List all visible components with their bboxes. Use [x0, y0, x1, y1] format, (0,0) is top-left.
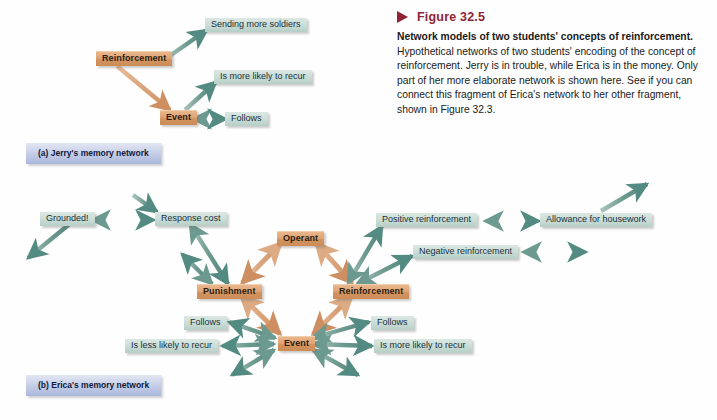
jerry-links: [117, 30, 226, 119]
caption-erica-memory-network: (b) Erica's memory network: [26, 375, 161, 396]
node-response-cost[interactable]: Response cost: [155, 212, 227, 226]
node-label: Is more likely to recur: [374, 339, 472, 353]
node-jerry-follows[interactable]: Follows: [225, 112, 268, 126]
link-operant-punishment: [242, 243, 281, 283]
link-stub-respcost-up: [133, 195, 157, 212]
node-negative-reinforcement[interactable]: Negative reinforcement: [413, 245, 518, 259]
link-stub-grounded-down: [28, 222, 72, 258]
node-erica-reinforcement[interactable]: Reinforcement: [333, 284, 409, 299]
triangle-right-icon: [397, 11, 408, 23]
node-label: Event: [160, 110, 197, 125]
link-stub-punishment-upleft: [182, 254, 212, 284]
node-label: Event: [278, 336, 315, 351]
node-positive-reinforcement[interactable]: Positive reinforcement: [376, 213, 477, 227]
figure-page: Sending more soldiers Reinforcement Is m…: [0, 0, 717, 420]
node-label: Follows: [184, 316, 227, 330]
figure-number: Figure 32.5: [417, 10, 485, 24]
link-responsecost-punishment: [190, 224, 228, 284]
link-reinforcement-negative: [357, 256, 412, 284]
node-jerry-reinforcement[interactable]: Reinforcement: [96, 51, 172, 66]
figure-caption-block: Figure 32.5 Network models of two studen…: [397, 10, 709, 118]
link-event-morelikely: [313, 344, 372, 346]
node-label: Follows: [225, 112, 268, 126]
node-label: Follows: [371, 316, 414, 330]
node-label: Positive reinforcement: [376, 213, 477, 227]
node-erica-is-more-likely-to-recur[interactable]: Is more likely to recur: [374, 339, 472, 353]
link-stub-allowance-up: [601, 184, 647, 211]
node-erica-follows-right[interactable]: Follows: [371, 316, 414, 330]
link-stub-event-downright: [313, 350, 358, 375]
link-operant-reinforcement: [316, 243, 352, 283]
node-label: Sending more soldiers: [205, 18, 307, 32]
figure-heading-row: Figure 32.5: [397, 10, 709, 24]
node-jerry-is-more-likely-to-recur[interactable]: Is more likely to recur: [214, 70, 312, 84]
node-label: Reinforcement: [333, 284, 409, 299]
node-label: Punishment: [197, 284, 262, 299]
caption-text: (b) Erica's memory network: [26, 375, 161, 396]
node-allowance-for-housework[interactable]: Allowance for housework: [540, 213, 652, 227]
node-jerry-event[interactable]: Event: [160, 110, 197, 125]
node-erica-event[interactable]: Event: [278, 336, 315, 351]
link-stub-event-downleft: [232, 350, 274, 375]
node-label: Reinforcement: [96, 51, 172, 66]
node-operant[interactable]: Operant: [277, 231, 324, 246]
node-label: Is less likely to recur: [125, 339, 218, 353]
node-label: Grounded!: [40, 212, 95, 226]
figure-caption-text: Network models of two students' concepts…: [397, 30, 709, 118]
node-erica-follows-left[interactable]: Follows: [184, 316, 227, 330]
node-label: Response cost: [155, 212, 227, 226]
node-label: Operant: [277, 231, 324, 246]
link-event-lesslikely: [222, 344, 274, 346]
node-sending-more-soldiers[interactable]: Sending more soldiers: [205, 18, 307, 32]
link-event-recur: [185, 82, 216, 110]
node-label: Negative reinforcement: [413, 245, 518, 259]
node-label: Is more likely to recur: [214, 70, 312, 84]
link-reinforcement-event: [117, 66, 170, 110]
caption-jerry-memory-network: (a) Jerry's memory network: [26, 143, 161, 164]
node-is-less-likely-to-recur[interactable]: Is less likely to recur: [125, 339, 218, 353]
node-label: Allowance for housework: [540, 213, 652, 227]
figure-caption-body: Hypothetical networks of two students' e…: [397, 46, 698, 115]
figure-caption-title: Network models of two students' concepts…: [397, 31, 693, 42]
caption-text: (a) Jerry's memory network: [26, 143, 161, 164]
node-grounded[interactable]: Grounded!: [40, 212, 95, 226]
node-punishment[interactable]: Punishment: [197, 284, 262, 299]
link-reinforcement-sending: [168, 30, 207, 57]
